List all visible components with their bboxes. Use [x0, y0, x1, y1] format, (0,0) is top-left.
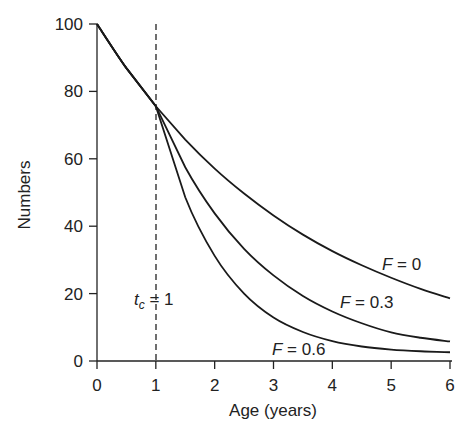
x-tick-label: 2 [210, 376, 219, 395]
x-tick-label: 1 [151, 376, 160, 395]
y-tick-label: 0 [74, 352, 83, 371]
axes [97, 24, 452, 361]
x-tick-label: 4 [328, 376, 337, 395]
x-tick-label: 5 [386, 376, 395, 395]
label-f06: F = 0.6 [272, 340, 325, 359]
x-axis-label: Age (years) [229, 401, 317, 420]
svg-text:tc = 1: tc = 1 [134, 290, 174, 312]
x-tick-label: 6 [445, 376, 454, 395]
label-f0: F = 0 [382, 255, 421, 274]
x-tick-label: 0 [92, 376, 101, 395]
y-tick-label: 100 [55, 15, 83, 34]
label-f03: F = 0.3 [340, 293, 393, 312]
y-tick-label: 60 [64, 150, 83, 169]
ticks: 0123456020406080100 [55, 15, 455, 395]
y-tick-label: 20 [64, 285, 83, 304]
y-axis-label: Numbers [15, 161, 34, 230]
tc-label: tc = 1 [134, 290, 174, 312]
y-tick-label: 40 [64, 217, 83, 236]
chart: 0123456020406080100 Numbers Age (years) … [0, 0, 470, 445]
x-tick-label: 3 [269, 376, 278, 395]
y-tick-label: 80 [64, 82, 83, 101]
